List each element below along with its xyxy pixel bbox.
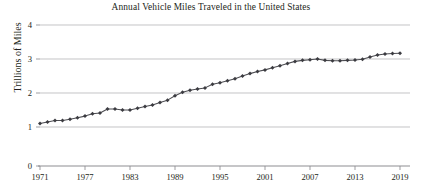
x-tick-label-1977: 1977 bbox=[65, 172, 105, 182]
data-point bbox=[308, 58, 312, 62]
axis-lines bbox=[36, 25, 410, 166]
data-point bbox=[226, 79, 230, 83]
x-tick-label-2001: 2001 bbox=[245, 172, 285, 182]
data-point bbox=[181, 90, 185, 94]
x-tick-label-1983: 1983 bbox=[110, 172, 150, 182]
data-line bbox=[40, 53, 400, 123]
plot-area bbox=[0, 0, 422, 193]
data-point bbox=[286, 61, 290, 65]
data-point bbox=[46, 120, 50, 124]
data-point bbox=[196, 87, 200, 91]
data-point bbox=[83, 114, 87, 118]
data-point bbox=[106, 107, 110, 111]
data-point bbox=[53, 119, 57, 123]
data-point bbox=[128, 108, 132, 112]
data-point bbox=[398, 51, 402, 55]
data-point bbox=[151, 103, 155, 107]
data-point bbox=[61, 119, 65, 123]
y-tick-label-0: 0 bbox=[18, 161, 32, 171]
x-tick-label-1995: 1995 bbox=[200, 172, 240, 182]
y-tick-label-1: 1 bbox=[18, 122, 32, 132]
x-tick-label-2013: 2013 bbox=[335, 172, 375, 182]
data-point bbox=[361, 57, 365, 61]
data-point bbox=[263, 68, 267, 72]
data-point bbox=[316, 57, 320, 61]
data-point bbox=[391, 52, 395, 56]
data-point bbox=[76, 116, 80, 120]
y-tick-label-2: 2 bbox=[18, 88, 32, 98]
data-point bbox=[293, 59, 297, 63]
data-point bbox=[203, 86, 207, 90]
x-tick-label-2007: 2007 bbox=[290, 172, 330, 182]
data-point bbox=[218, 81, 222, 85]
source-note bbox=[2, 187, 202, 193]
gridlines bbox=[40, 25, 410, 127]
data-point bbox=[68, 117, 72, 121]
data-point bbox=[271, 66, 275, 70]
data-point bbox=[233, 77, 237, 81]
data-point bbox=[136, 106, 140, 110]
data-point bbox=[143, 105, 147, 109]
data-point bbox=[278, 64, 282, 68]
data-point bbox=[38, 122, 42, 126]
data-point bbox=[188, 88, 192, 92]
data-point bbox=[113, 107, 117, 111]
data-point-markers bbox=[38, 51, 402, 125]
data-point bbox=[158, 101, 162, 105]
x-tick-label-1989: 1989 bbox=[155, 172, 195, 182]
data-point bbox=[376, 53, 380, 57]
y-tick-label-4: 4 bbox=[18, 20, 32, 30]
y-tick-label-3: 3 bbox=[18, 54, 32, 64]
data-point bbox=[121, 108, 125, 112]
chart-container: Annual Vehicle Miles Traveled in the Uni… bbox=[0, 0, 422, 193]
x-axis-ticks bbox=[40, 166, 400, 170]
data-point bbox=[211, 82, 215, 86]
data-point bbox=[368, 55, 372, 59]
data-point bbox=[256, 70, 260, 74]
x-tick-label-1971: 1971 bbox=[20, 172, 60, 182]
data-point bbox=[98, 111, 102, 115]
data-point bbox=[383, 52, 387, 56]
data-point bbox=[241, 74, 245, 78]
data-point bbox=[248, 72, 252, 76]
x-tick-label-2019: 2019 bbox=[380, 172, 420, 182]
data-point bbox=[91, 112, 95, 116]
